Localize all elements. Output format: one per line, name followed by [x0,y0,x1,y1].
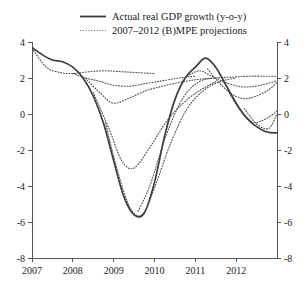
x-tick-label: 2011 [186,265,206,276]
y-tick-label-left: -8 [17,253,25,264]
chart-canvas: 442200-2-2-4-4-6-6-8-8200720082009201020… [0,0,307,291]
x-tick-label: 2012 [226,265,246,276]
x-tick-label: 2007 [22,265,42,276]
series-line-projection [32,48,155,73]
y-tick-label-right: -8 [284,253,292,264]
series-line-projection [106,78,237,216]
series-line-projection [244,109,277,129]
y-tick-label-left: 0 [20,109,25,120]
series-line-actual [32,47,277,217]
y-tick-label-left: 2 [20,73,25,84]
y-tick-label-right: -4 [284,181,292,192]
legend-label-projections: 2007–2012 (B)MPE projections [112,25,247,37]
y-tick-label-left: 4 [20,37,25,48]
chart-legend: Actual real GDP growth (y-o-y)2007–2012 … [80,11,247,37]
y-tick-label-right: 2 [284,73,289,84]
y-tick-label-right: 0 [284,109,289,120]
series-line-projection [228,91,277,123]
y-tick-label-right: 4 [284,37,289,48]
x-tick-label: 2010 [145,265,165,276]
y-tick-label-left: -6 [17,217,25,228]
series-layer [32,47,277,217]
gdp-growth-projections-figure: 442200-2-2-4-4-6-6-8-8200720082009201020… [0,0,307,291]
series-line-projection [138,76,277,211]
x-tick-label: 2008 [63,265,83,276]
y-tick-label-left: -2 [17,145,25,156]
series-line-projection [85,78,212,103]
y-tick-label-right: -6 [284,217,292,228]
y-tick-label-right: -2 [284,145,292,156]
legend-label-actual: Actual real GDP growth (y-o-y) [112,11,247,23]
x-tick-label: 2009 [104,265,124,276]
y-tick-label-left: -4 [17,181,25,192]
